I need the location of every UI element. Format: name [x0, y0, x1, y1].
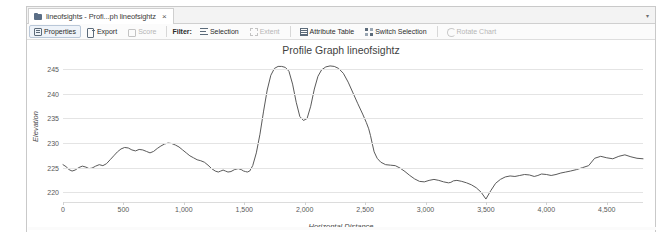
attribute-table-label: Attribute Table: [310, 28, 355, 35]
x-axis-tick-mark: [546, 202, 547, 205]
elevation-profile-line: [63, 62, 643, 202]
x-axis-tick-mark: [486, 202, 487, 205]
y-gridline: [63, 192, 643, 193]
filter-label: Filter:: [172, 28, 191, 35]
x-axis-tick-mark: [63, 202, 64, 205]
filter-extent-label: Extent: [260, 28, 280, 35]
y-axis-tick-label: 245: [47, 66, 59, 73]
x-axis-tick-mark: [426, 202, 427, 205]
y-axis-tick-label: 225: [47, 164, 59, 171]
x-axis-tick-label: 4,500: [598, 206, 616, 213]
x-axis-tick-label: 3,500: [477, 206, 495, 213]
x-axis-tick-label: 1,500: [235, 206, 253, 213]
score-button-label: Score: [138, 28, 156, 35]
y-gridline: [63, 118, 643, 119]
chart-area: Profile Graph lineofsightz Elevation Hor…: [27, 40, 655, 232]
x-axis-tick-mark: [305, 202, 306, 205]
x-axis-line: [63, 202, 643, 203]
x-axis-tick-mark: [184, 202, 185, 205]
tab-label: lineofsights - Profi...ph lineofsightz: [46, 12, 156, 21]
x-axis-tick-mark: [244, 202, 245, 205]
toolbar-divider: [290, 26, 291, 37]
y-axis-tick-label: 235: [47, 115, 59, 122]
x-axis-tick-label: 2,000: [296, 206, 314, 213]
horizontal-scrollbar[interactable]: [28, 227, 656, 230]
y-gridline: [63, 168, 643, 169]
plot-area[interactable]: 22022523023524024505001,0001,5002,0002,5…: [63, 62, 643, 202]
switch-selection-button[interactable]: Switch Selection: [360, 25, 431, 38]
chart-toolbar: Properties Export Score Filter: Selectio…: [27, 24, 655, 40]
export-button-label: Export: [97, 28, 117, 35]
switch-selection-label: Switch Selection: [375, 28, 426, 35]
selection-icon: [200, 28, 208, 36]
properties-button-label: Properties: [44, 28, 76, 35]
toolbar-divider: [166, 26, 167, 37]
score-icon: [128, 28, 136, 36]
toolbar-divider: [437, 26, 438, 37]
rotate-chart-label: Rotate Chart: [457, 28, 497, 35]
y-gridline: [63, 94, 643, 95]
profile-graph-panel: lineofsights - Profi...ph lineofsightz ×…: [26, 6, 656, 232]
extent-icon: [250, 28, 258, 36]
chart-tab-icon: [34, 13, 42, 20]
attribute-table-icon: [300, 28, 308, 36]
y-axis-label: Elevation: [31, 97, 40, 157]
tab-strip: lineofsights - Profi...ph lineofsightz ×…: [27, 7, 655, 24]
chevron-down-icon[interactable]: ▾: [643, 11, 652, 20]
y-axis-tick-label: 230: [47, 140, 59, 147]
x-axis-tick-label: 0: [61, 206, 65, 213]
x-axis-tick-mark: [365, 202, 366, 205]
chart-title: Profile Graph lineofsightz: [27, 44, 655, 56]
x-axis-tick-mark: [123, 202, 124, 205]
properties-button[interactable]: Properties: [29, 25, 81, 38]
x-axis-tick-mark: [607, 202, 608, 205]
y-axis-tick-label: 220: [47, 189, 59, 196]
filter-extent-button: Extent: [245, 25, 285, 38]
export-icon: [87, 28, 95, 36]
rotate-chart-icon: [447, 28, 455, 36]
y-gridline: [63, 143, 643, 144]
series-line: [63, 66, 643, 199]
export-button[interactable]: Export: [82, 25, 122, 38]
switch-selection-icon: [365, 28, 373, 36]
tab-profile-graph[interactable]: lineofsights - Profi...ph lineofsightz ×: [28, 8, 174, 24]
y-axis-tick-label: 240: [47, 90, 59, 97]
score-button: Score: [123, 25, 161, 38]
close-icon[interactable]: ×: [162, 13, 167, 21]
y-gridline: [63, 69, 643, 70]
filter-selection-label: Selection: [210, 28, 239, 35]
properties-icon: [34, 28, 42, 36]
x-axis-tick-label: 500: [118, 206, 130, 213]
filter-selection-button[interactable]: Selection: [195, 25, 244, 38]
x-axis-tick-label: 4,000: [538, 206, 556, 213]
x-axis-tick-label: 1,000: [175, 206, 193, 213]
rotate-chart-button: Rotate Chart: [442, 25, 502, 38]
attribute-table-button[interactable]: Attribute Table: [295, 25, 360, 38]
x-axis-tick-label: 3,000: [417, 206, 435, 213]
x-axis-tick-label: 2,500: [356, 206, 374, 213]
profile-graph-window: lineofsights - Profi...ph lineofsightz ×…: [0, 0, 671, 244]
